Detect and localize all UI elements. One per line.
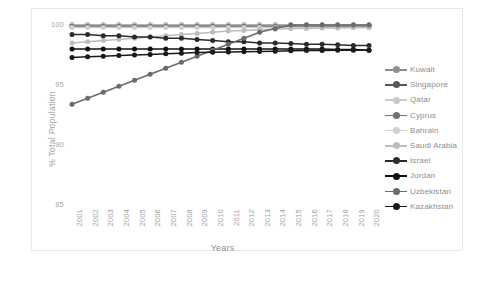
legend-item-label: Saudi Arabia xyxy=(407,141,457,150)
legend-marker-icon xyxy=(385,201,407,212)
plot-area xyxy=(68,18,377,210)
chart-figure: % Total Population 100959085 20012002200… xyxy=(0,0,494,284)
data-point xyxy=(132,25,137,30)
data-point xyxy=(241,49,246,54)
data-point xyxy=(351,48,356,53)
series-layer xyxy=(68,18,377,210)
legend-item-kazakhstan[interactable]: Kazakhstan xyxy=(385,199,489,214)
data-point xyxy=(195,31,200,36)
data-point xyxy=(367,48,372,53)
legend-item-label: Singapore xyxy=(407,80,448,89)
y-axis-tick-label: 95 xyxy=(34,81,64,89)
data-point xyxy=(273,26,278,31)
data-point xyxy=(132,53,137,58)
legend-marker-icon xyxy=(385,94,407,105)
y-axis-tick-label: 90 xyxy=(34,141,64,149)
data-point xyxy=(179,51,184,56)
data-point xyxy=(70,32,75,37)
data-point xyxy=(288,41,293,46)
legend-marker-icon xyxy=(385,79,407,90)
legend-marker-icon xyxy=(385,186,407,197)
data-point xyxy=(367,43,372,48)
data-point xyxy=(85,32,90,37)
data-point xyxy=(101,47,106,52)
legend-marker-icon xyxy=(385,155,407,166)
legend-item-cyprus[interactable]: Cyprus xyxy=(385,108,489,123)
legend-item-saudi-arabia[interactable]: Saudi Arabia xyxy=(385,138,489,153)
data-point xyxy=(195,25,200,30)
legend-marker-icon xyxy=(385,125,407,136)
data-point xyxy=(85,47,90,52)
data-point xyxy=(304,23,309,28)
data-point xyxy=(148,35,153,40)
data-point xyxy=(210,38,215,43)
data-point xyxy=(257,30,262,35)
legend-item-label: Israel xyxy=(407,156,430,165)
data-point xyxy=(257,41,262,46)
legend-marker-icon xyxy=(385,140,407,151)
data-point xyxy=(273,41,278,46)
legend-item-singapore[interactable]: Singapore xyxy=(385,77,489,92)
data-point xyxy=(335,42,340,47)
data-point xyxy=(163,66,168,71)
legend-marker-icon xyxy=(385,170,407,181)
legend-item-uzbekistan[interactable]: Uzbekistan xyxy=(385,184,489,199)
data-point xyxy=(335,23,340,28)
data-point xyxy=(132,47,137,52)
data-point xyxy=(241,28,246,33)
data-point xyxy=(70,47,75,52)
legend-item-label: Jordan xyxy=(407,171,435,180)
legend-item-kuwait[interactable]: Kuwait xyxy=(385,62,489,77)
data-point xyxy=(320,23,325,28)
data-point xyxy=(116,33,121,38)
legend-item-bahrain[interactable]: Bahrain xyxy=(385,123,489,138)
y-axis-tick-label: 85 xyxy=(34,201,64,209)
y-axis-tick-label: 100 xyxy=(34,21,64,29)
data-point xyxy=(163,36,168,41)
data-point xyxy=(257,49,262,54)
data-point xyxy=(226,50,231,55)
data-point xyxy=(335,48,340,53)
data-point xyxy=(85,25,90,30)
data-point xyxy=(241,36,246,41)
data-point xyxy=(320,42,325,47)
data-point xyxy=(148,52,153,57)
data-point xyxy=(163,51,168,56)
data-point xyxy=(116,53,121,58)
data-point xyxy=(70,25,75,30)
data-point xyxy=(226,42,231,47)
legend-item-label: Kazakhstan xyxy=(407,202,453,211)
data-point xyxy=(288,48,293,53)
legend-item-label: Qatar xyxy=(407,95,431,104)
data-point xyxy=(304,42,309,47)
chart-legend: KuwaitSingaporeQatarCyprusBahrainSaudi A… xyxy=(385,62,489,214)
legend-item-label: Uzbekistan xyxy=(407,187,451,196)
data-point xyxy=(70,41,75,46)
legend-item-label: Cyprus xyxy=(407,111,436,120)
data-point xyxy=(288,23,293,28)
legend-item-qatar[interactable]: Qatar xyxy=(385,92,489,107)
data-point xyxy=(179,36,184,41)
data-point xyxy=(132,35,137,40)
data-point xyxy=(85,54,90,59)
data-point xyxy=(210,30,215,35)
legend-item-jordan[interactable]: Jordan xyxy=(385,168,489,183)
data-point xyxy=(179,25,184,30)
data-point xyxy=(70,55,75,60)
x-axis-label: Years xyxy=(68,243,377,253)
data-point xyxy=(101,90,106,95)
data-point xyxy=(101,54,106,59)
data-point xyxy=(179,60,184,65)
data-point xyxy=(148,72,153,77)
legend-item-israel[interactable]: Israel xyxy=(385,153,489,168)
data-point xyxy=(148,25,153,30)
legend-item-label: Bahrain xyxy=(407,126,439,135)
data-point xyxy=(101,38,106,43)
data-point xyxy=(195,50,200,55)
data-point xyxy=(367,23,372,28)
y-axis-ticks: 100959085 xyxy=(34,0,64,240)
data-point xyxy=(351,23,356,28)
data-point xyxy=(116,47,121,52)
data-point xyxy=(320,48,325,53)
data-point xyxy=(101,25,106,30)
